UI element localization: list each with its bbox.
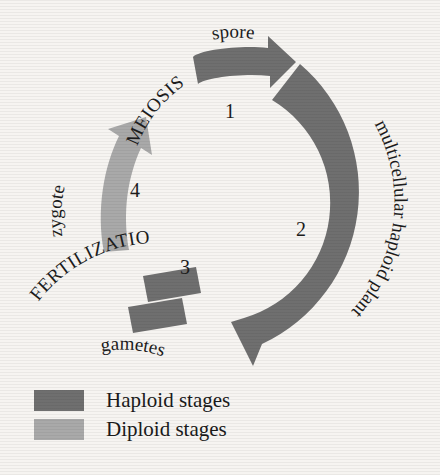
stage-2-plant-arc bbox=[231, 64, 359, 366]
legend: Haploid stages Diploid stages bbox=[34, 386, 374, 444]
stage-number-2: 2 bbox=[296, 218, 306, 240]
stage-number-3: 3 bbox=[180, 256, 190, 278]
life-cycle-diagram: spore MEIOSIS multicellular haploid plan… bbox=[0, 0, 440, 475]
legend-label-diploid: Diploid stages bbox=[106, 417, 227, 442]
legend-item-diploid: Diploid stages bbox=[34, 415, 374, 444]
label-multicellular-haploid-plant: multicellular haploid plant bbox=[348, 116, 412, 323]
stage-number-4: 4 bbox=[130, 179, 140, 201]
legend-swatch-diploid bbox=[34, 419, 84, 440]
stage-number-1: 1 bbox=[225, 100, 235, 122]
cycle-svg: spore MEIOSIS multicellular haploid plan… bbox=[0, 0, 440, 390]
label-gametes: gametes bbox=[99, 333, 168, 361]
legend-label-haploid: Haploid stages bbox=[106, 388, 230, 413]
label-spore: spore bbox=[210, 21, 256, 44]
legend-item-haploid: Haploid stages bbox=[34, 386, 374, 415]
stage-3-gametes-bars bbox=[128, 267, 201, 333]
label-zygote: zygote bbox=[44, 183, 69, 239]
legend-swatch-haploid bbox=[34, 390, 84, 411]
label-meiosis: MEIOSIS bbox=[122, 71, 188, 148]
stage-1-spore-arrow bbox=[193, 36, 296, 88]
